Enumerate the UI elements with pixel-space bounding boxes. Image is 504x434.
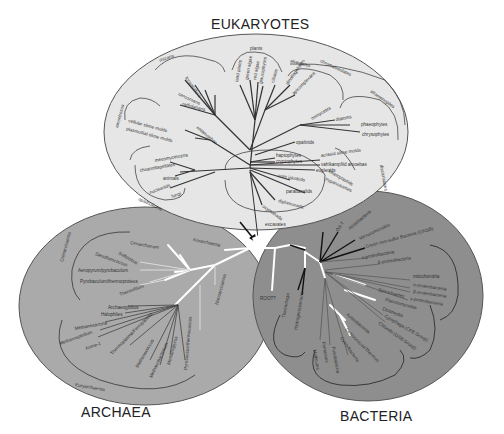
svg-text:opalinids: opalinids [296, 140, 315, 145]
svg-text:Archaeoglobus: Archaeoglobus [108, 305, 139, 310]
svg-text:parabasalids: parabasalids [286, 189, 313, 194]
svg-text:vahlkampfiid amoebas: vahlkampfiid amoebas [321, 162, 367, 167]
svg-text:animals: animals [163, 176, 180, 181]
svg-text:phaeophytes: phaeophytes [361, 122, 388, 127]
svg-text:chrysophytes: chrysophytes [362, 132, 390, 137]
svg-text:Pyrobaculum/thermoproteus: Pyrobaculum/thermoproteus [80, 279, 138, 284]
svg-text:mitochondria: mitochondria [413, 274, 440, 279]
tree-of-life-diagram: plants rhizaria alveolates chromalveolat… [0, 0, 504, 434]
svg-text:excavates: excavates [265, 222, 286, 227]
svg-text:Halophiles: Halophiles [101, 312, 123, 317]
svg-text:Aeropyrum/pyrobaculum: Aeropyrum/pyrobaculum [78, 268, 128, 273]
svg-text:cryptophytes: cryptophytes [276, 159, 303, 164]
svg-text:haptophytes: haptophytes [276, 153, 302, 158]
svg-text:plants: plants [250, 46, 263, 51]
root-label: ROOT? [260, 296, 276, 301]
